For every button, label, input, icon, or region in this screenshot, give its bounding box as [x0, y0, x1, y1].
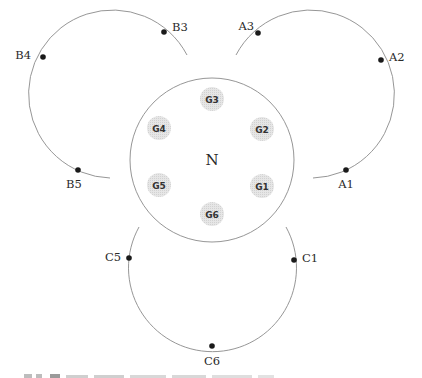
node-b3-label: B3 — [172, 20, 188, 34]
group-label: G1 — [255, 182, 269, 192]
node-c6-dot — [209, 343, 215, 349]
node-b3-dot — [161, 29, 167, 35]
group-g1: G1 — [250, 174, 274, 198]
caption-fragment — [36, 374, 42, 378]
caption-fragment — [24, 374, 32, 378]
node-a3-dot — [255, 30, 261, 36]
figure-caption — [24, 374, 274, 378]
node-a1-dot — [343, 167, 349, 173]
node-a3-label: A3 — [237, 19, 254, 33]
group-g2: G2 — [250, 117, 274, 141]
node-c6-label: C6 — [204, 354, 220, 368]
node-c5-label: C5 — [105, 250, 121, 264]
group-label: G2 — [255, 125, 269, 135]
group-label: G5 — [152, 181, 166, 191]
node-a2-dot — [378, 57, 384, 63]
group-g3: G3 — [200, 87, 224, 111]
node-c1-dot — [291, 257, 297, 263]
arc-group-c: C1C5C6 — [105, 227, 318, 368]
caption-fragment — [50, 374, 60, 378]
arc-group-b: B3B4B5 — [15, 10, 188, 191]
group-label: G3 — [205, 95, 219, 105]
node-b4-label: B4 — [15, 48, 31, 62]
group-label: G4 — [152, 124, 166, 134]
arc-group-a: A1A2A3 — [236, 10, 405, 191]
network-diagram: A1A2A3B3B4B5C1C5C6 N G1G2G3G4G5G6 — [0, 0, 422, 378]
node-b5-label: B5 — [66, 177, 82, 191]
arc-c — [129, 227, 297, 352]
group-label: G6 — [205, 210, 219, 220]
group-g4: G4 — [147, 116, 171, 140]
node-c5-dot — [126, 255, 132, 261]
node-a1-label: A1 — [337, 177, 354, 191]
arc-a — [236, 10, 394, 178]
group-g5: G5 — [147, 173, 171, 197]
center-node-label: N — [205, 151, 218, 169]
node-b4-dot — [40, 54, 46, 60]
node-a2-label: A2 — [388, 50, 405, 64]
group-g6: G6 — [200, 202, 224, 226]
arcs-layer: A1A2A3B3B4B5C1C5C6 — [15, 10, 404, 368]
node-c1-label: C1 — [302, 251, 318, 265]
node-b5-dot — [75, 167, 81, 173]
